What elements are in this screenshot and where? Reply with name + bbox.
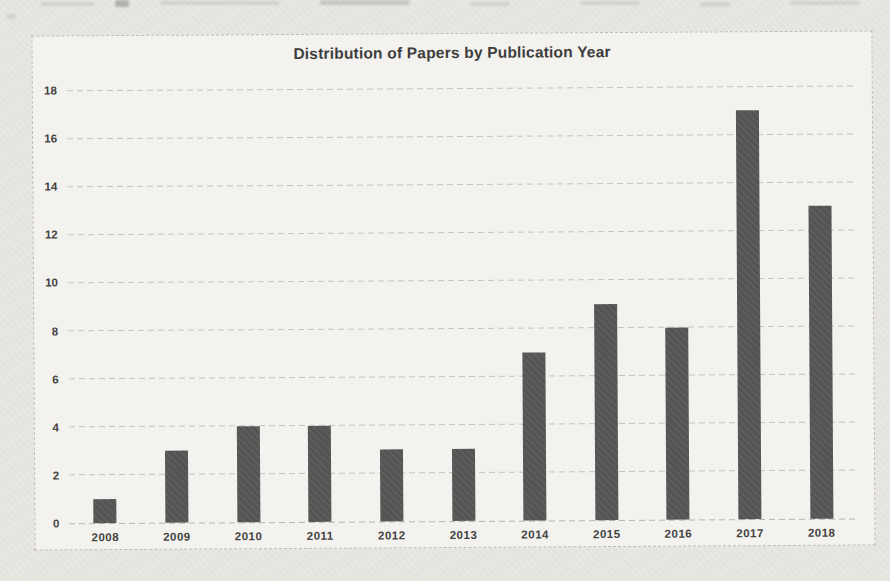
x-axis-tick-label: 2015	[577, 528, 637, 540]
gridline	[67, 85, 855, 91]
scan-smudge	[40, 2, 95, 6]
x-axis-tick-label: 2011	[290, 530, 350, 542]
x-axis-tick-label: 2016	[648, 527, 708, 539]
x-axis-tick-label: 2013	[433, 529, 493, 541]
y-axis-tick-label: 4	[35, 420, 59, 434]
x-axis-tick-label: 2012	[362, 529, 422, 541]
scan-smudge	[320, 0, 410, 5]
bar	[808, 206, 833, 519]
bar	[236, 426, 260, 522]
chart-title: Distribution of Papers by Publication Ye…	[33, 41, 872, 64]
scan-smudge	[790, 1, 860, 5]
y-axis-tick-label: 10	[34, 276, 58, 290]
bar	[380, 449, 403, 521]
x-axis-tick-label: 2018	[792, 527, 852, 539]
y-axis-tick-label: 16	[33, 132, 57, 146]
y-axis-tick-label: 6	[34, 372, 58, 386]
scan-smudge	[580, 1, 640, 5]
bar-chart: Distribution of Papers by Publication Ye…	[31, 30, 875, 550]
bar	[451, 449, 474, 521]
y-axis-tick-label: 14	[33, 180, 57, 194]
x-axis-tick-label: 2009	[147, 531, 207, 543]
x-axis-tick-label: 2008	[75, 531, 135, 543]
y-axis-tick-label: 18	[33, 83, 57, 97]
scan-smudge	[6, 14, 16, 19]
y-axis-tick-label: 12	[34, 228, 58, 242]
bar	[94, 499, 117, 523]
scan-smudge	[470, 2, 510, 6]
x-axis-tick-label: 2014	[505, 528, 565, 540]
bar	[165, 450, 188, 522]
scan-smudge	[700, 2, 730, 7]
bar	[594, 304, 618, 521]
y-axis-tick-label: 0	[35, 516, 59, 530]
bar	[523, 352, 547, 521]
bar	[308, 426, 332, 522]
y-axis-tick-label: 2	[35, 468, 59, 482]
y-axis-tick-label: 8	[34, 324, 58, 338]
scan-smudge	[115, 0, 129, 7]
bar	[736, 110, 761, 519]
bar	[666, 327, 690, 520]
scan-smudge	[160, 1, 280, 5]
x-axis-tick-label: 2010	[219, 530, 279, 542]
plot-area: 0246810121416182008200920102011201220132…	[32, 31, 871, 36]
scanned-page: Distribution of Papers by Publication Ye…	[0, 0, 890, 581]
x-axis-tick-label: 2017	[720, 527, 780, 539]
